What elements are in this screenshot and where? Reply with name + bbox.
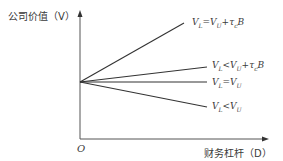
line-vl-lt-vu-plus-tax xyxy=(80,67,207,82)
line-label-vl-eq-vu-plus-tax: VL=VU+τcB xyxy=(192,17,244,29)
y-axis-arrow-icon xyxy=(78,10,83,17)
line-label-vl-lt-vu-plus-tax: VL<VU+τcB xyxy=(212,60,264,72)
line-label-vl-eq-vu: VL=VU xyxy=(212,77,242,89)
line-vl-eq-vu-plus-tax xyxy=(80,23,184,82)
line-vl-lt-vu xyxy=(80,82,207,107)
x-axis-arrow-icon xyxy=(262,137,269,142)
origin-label: O xyxy=(77,143,85,154)
y-axis-label: 公司价值（V） xyxy=(8,8,75,23)
x-axis-label: 财务杠杆（D） xyxy=(204,145,272,160)
line-label-vl-lt-vu: VL<VU xyxy=(212,101,242,113)
